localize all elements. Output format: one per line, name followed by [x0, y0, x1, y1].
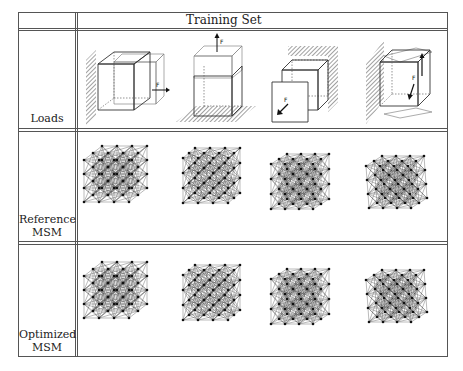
row-label-optimized-line1: Optimized — [19, 328, 75, 341]
optimized-msm-mesh-4 — [360, 258, 440, 336]
force-arrow-pair-icon: F — [408, 53, 425, 100]
row-label-optimized-line2: MSM — [19, 341, 75, 354]
row-label-reference-line2: MSM — [19, 226, 75, 239]
row-label-reference-msm: Reference MSM — [19, 213, 75, 239]
header-title: Training Set — [186, 13, 262, 27]
force-arrow-icon: F — [152, 81, 170, 93]
svg-text:F: F — [156, 81, 160, 88]
row3-top-rule — [18, 244, 448, 245]
table-border-right — [447, 12, 448, 357]
optimized-msm-mesh-2 — [177, 253, 265, 341]
wall-hatch-icon — [366, 40, 384, 124]
load-case-2-diagram: F — [172, 32, 262, 126]
header-bottom-rule-1 — [18, 28, 448, 29]
optimized-msm-mesh-3 — [265, 257, 349, 339]
label-column-rule-2 — [77, 12, 78, 357]
reference-msm-mesh-4 — [360, 144, 440, 222]
row-label-optimized-msm: Optimized MSM — [19, 328, 75, 354]
reference-msm-mesh-3 — [265, 142, 349, 224]
row2-bottom-rule — [18, 241, 448, 242]
svg-text:F: F — [412, 74, 416, 81]
floor-hatch-icon — [176, 106, 256, 122]
row-label-loads-line1: Loads — [30, 112, 63, 125]
load-case-1-diagram: F — [82, 38, 172, 126]
svg-text:F: F — [220, 38, 224, 45]
label-column-rule-1 — [75, 12, 76, 357]
table-border-bottom — [18, 356, 448, 357]
table-border-left — [18, 12, 19, 357]
row-label-loads: Loads — [19, 112, 75, 125]
reference-msm-mesh-1 — [80, 140, 170, 220]
force-arrow-icon: F — [215, 33, 225, 52]
header-bottom-rule-2 — [18, 30, 448, 31]
svg-text:F: F — [284, 96, 288, 103]
row1-bottom-rule — [18, 128, 448, 129]
optimized-msm-mesh-1 — [80, 256, 170, 336]
wall-hatch-icon — [86, 50, 96, 126]
load-case-3-diagram: F — [268, 40, 348, 126]
reference-msm-mesh-2 — [177, 136, 265, 224]
row-label-reference-line1: Reference — [19, 213, 75, 226]
load-case-4-diagram: F — [362, 34, 446, 126]
row2-top-rule — [18, 131, 448, 132]
